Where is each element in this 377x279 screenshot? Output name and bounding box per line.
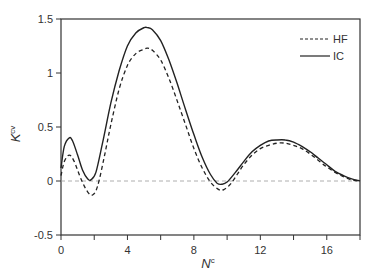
x-tick-label: 8 [191, 244, 197, 256]
x-tick-label: 0 [58, 244, 64, 256]
series-ic-line [61, 27, 360, 184]
y-tick-label: 0.5 [38, 121, 53, 133]
x-axis-label: Nc [201, 256, 214, 271]
y-tick-label: -0.5 [34, 229, 53, 241]
series-layer [61, 27, 360, 195]
x-tick-label: 4 [124, 244, 130, 256]
legend-ic-label: IC [333, 50, 344, 62]
y-axis-ticks: -0.500.511.5 [34, 13, 61, 241]
y-tick-label: 1 [47, 67, 53, 79]
chart: -0.500.511.5 0481216 Kcv Nc HF IC [0, 0, 377, 279]
x-tick-label: 12 [254, 244, 266, 256]
x-tick-label: 16 [321, 244, 333, 256]
y-tick-label: 1.5 [38, 13, 53, 25]
y-axis-label: Kcv [8, 126, 23, 143]
legend-hf-label: HF [333, 33, 348, 45]
x-axis-ticks: 0481216 [58, 235, 360, 256]
y-tick-label: 0 [47, 175, 53, 187]
legend: HF IC [300, 33, 348, 62]
